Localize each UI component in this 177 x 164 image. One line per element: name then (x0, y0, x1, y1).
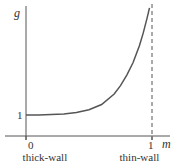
x-axis-label: m (162, 137, 171, 151)
series-line-g (26, 8, 150, 115)
x-tick-label: 1 (148, 139, 154, 151)
y-tick-label: 1 (17, 109, 23, 121)
annotation-label: thin-wall (120, 151, 160, 163)
y-axis-label: g (14, 6, 20, 20)
annotation-label: thick-wall (23, 151, 68, 163)
x-tick-label: 0 (28, 139, 34, 151)
chart: g m 01 1 thick-wallthin-wall (0, 0, 177, 164)
